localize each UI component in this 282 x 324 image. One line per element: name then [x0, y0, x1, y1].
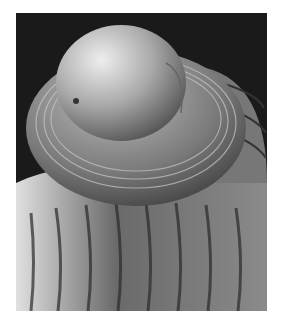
- micrograph-image: [16, 13, 267, 311]
- shell-apex: [56, 25, 186, 141]
- shell-illustration: [16, 13, 267, 311]
